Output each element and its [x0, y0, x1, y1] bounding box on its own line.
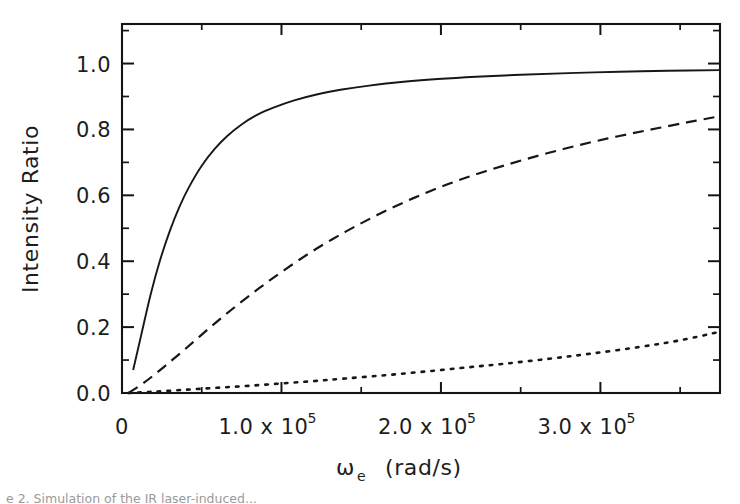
x-axis-title-subscript: e	[357, 468, 366, 484]
y-axis-tick-labels: 0.00.20.40.60.81.0	[76, 53, 111, 406]
x-axis-title: ω e (rad/s)	[336, 455, 462, 484]
solid-curve	[133, 70, 720, 370]
x-tick-label-exponent: 5	[626, 410, 635, 426]
y-tick-label-text: 0.8	[76, 118, 111, 142]
x-tick-label-mantissa: 3.0 x 10	[537, 415, 627, 439]
x-axis-title-symbol: ω	[336, 455, 355, 480]
x-axis-ticks-bottom	[122, 382, 680, 393]
y-tick-label-text: 0.6	[76, 184, 111, 208]
x-tick-label: 0	[115, 415, 129, 439]
data-series-group	[128, 70, 720, 393]
y-tick-label-text: 1.0	[76, 53, 111, 77]
y-tick-label-text: 0.2	[76, 316, 111, 340]
y-axis-title: Intensity Ratio	[18, 125, 43, 293]
y-axis-ticks-right	[708, 31, 720, 393]
figure-caption: e 2. Simulation of the IR laser-induced.…	[0, 491, 740, 504]
y-axis-ticks-left	[122, 31, 134, 393]
x-tick-label-exponent: 5	[307, 410, 316, 426]
x-tick-label: 3.0 x 105	[537, 410, 635, 439]
x-axis-ticks-top	[122, 24, 680, 35]
dashed-curve	[128, 116, 720, 393]
x-axis-tick-labels: 01.0 x 1052.0 x 1053.0 x 105	[115, 410, 635, 439]
dotted-curve	[128, 332, 720, 393]
x-tick-label: 2.0 x 105	[378, 410, 476, 439]
y-tick-label-text: 0.4	[76, 250, 111, 274]
x-tick-label-text: 0	[115, 415, 129, 439]
y-tick-label-text: 0.0	[76, 382, 111, 406]
x-tick-label: 1.0 x 105	[219, 410, 317, 439]
x-axis-title-units: (rad/s)	[385, 455, 462, 480]
x-tick-label-mantissa: 1.0 x 10	[219, 415, 309, 439]
x-tick-label-exponent: 5	[467, 410, 476, 426]
x-tick-label-mantissa: 2.0 x 10	[378, 415, 468, 439]
